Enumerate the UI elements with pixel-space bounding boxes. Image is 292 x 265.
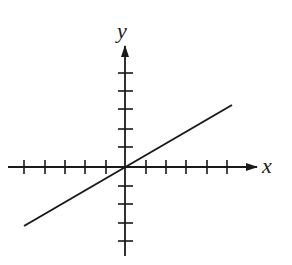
plotted-line <box>24 105 232 226</box>
x-axis-label: x <box>261 153 272 178</box>
coordinate-plane: y x <box>0 0 292 265</box>
y-axis-label: y <box>115 18 127 43</box>
